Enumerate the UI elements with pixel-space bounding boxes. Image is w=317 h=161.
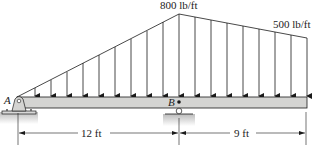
span-ab-label: 12 ft — [81, 127, 101, 139]
support-a-label: A — [3, 94, 11, 106]
load-peak-label: 800 lb/ft — [160, 0, 198, 11]
load-end-label: 500 lb/ft — [273, 18, 311, 30]
span-bc-label: 9 ft — [234, 127, 249, 139]
dimension-lines — [18, 112, 306, 145]
beam-diagram: 800 lb/ft 500 lb/ft A B 12 ft 9 ft — [0, 0, 317, 161]
beam — [17, 97, 307, 108]
distributed-load — [17, 14, 307, 97]
support-b-label: B — [168, 96, 175, 108]
